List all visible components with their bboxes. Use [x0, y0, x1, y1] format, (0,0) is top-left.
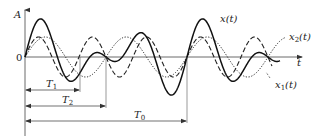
t0-label: T0 [134, 109, 145, 122]
x-axis-label: t [297, 57, 302, 68]
periodic-signal-diagram: A 0 t x(t) x2(t) x1(t) T1 T2 T0 [0, 0, 320, 140]
t1-label: T1 [46, 78, 57, 91]
x1-curve-label: x1(t) [275, 79, 297, 92]
x-curve-label: x(t) [220, 13, 238, 24]
y-axis-label: A [13, 9, 21, 20]
x1-leader [266, 72, 270, 78]
x2-curve-label: x2(t) [289, 31, 311, 44]
t2-label: T2 [62, 94, 73, 107]
origin-label: 0 [16, 52, 22, 63]
